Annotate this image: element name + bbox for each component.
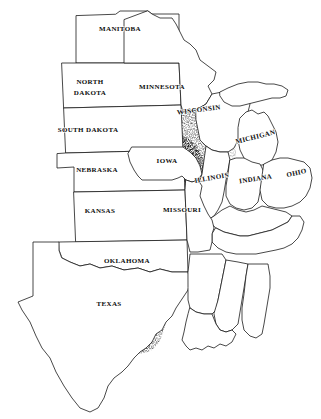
state-ohio xyxy=(260,158,312,208)
label-manitoba: MANITOBA xyxy=(99,25,141,33)
label-nebraska: NEBRASKA xyxy=(76,166,118,174)
label-iowa: IOWA xyxy=(157,157,178,165)
label-north-dakota-2: DAKOTA xyxy=(74,89,106,97)
state-kansas xyxy=(74,190,187,242)
label-south-dakota: SOUTH DAKOTA xyxy=(58,126,119,134)
label-minnesota: MINNESOTA xyxy=(139,83,185,91)
label-kansas: KANSAS xyxy=(85,207,116,215)
label-oklahoma: OKLAHOMA xyxy=(104,257,150,265)
map-container: MANITOBANORTHDAKOTAMINNESOTAWISCONSINSOU… xyxy=(0,0,321,419)
state-alabama xyxy=(242,264,270,338)
label-texas: TEXAS xyxy=(96,300,121,308)
state-michigan-upper xyxy=(220,82,288,106)
label-missouri: MISSOURI xyxy=(163,206,201,214)
map-svg: MANITOBANORTHDAKOTAMINNESOTAWISCONSINSOU… xyxy=(0,0,321,419)
label-north-dakota-1: NORTH xyxy=(76,78,103,86)
